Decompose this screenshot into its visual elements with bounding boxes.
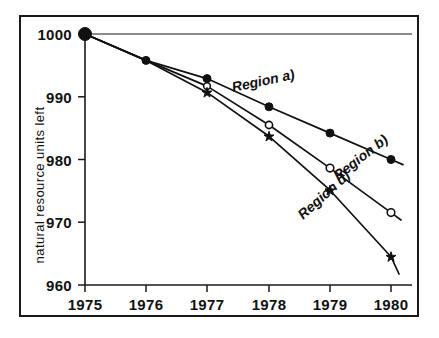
x-tick-label-1979: 1979 bbox=[313, 296, 348, 313]
y-tick-label-960: 960 bbox=[46, 277, 72, 294]
series-line-region-d bbox=[85, 34, 391, 257]
x-tick-label-1980: 1980 bbox=[374, 296, 409, 313]
y-tick-label-990: 990 bbox=[46, 89, 72, 106]
y-tick-label-970: 970 bbox=[46, 214, 72, 231]
series-label-region-a: Region a) bbox=[230, 66, 296, 95]
series-line-region-a bbox=[85, 34, 391, 160]
x-tick-label-1978: 1978 bbox=[252, 296, 287, 313]
x-tick-label-1976: 1976 bbox=[129, 296, 164, 313]
origin-marker bbox=[79, 28, 92, 41]
x-tick-label-1975: 1975 bbox=[68, 296, 103, 313]
y-axis-title: natural resource units left bbox=[32, 107, 47, 264]
y-tick-label-980: 980 bbox=[46, 152, 72, 169]
y-tick-label-1000: 1000 bbox=[37, 26, 72, 43]
x-tick-label-1977: 1977 bbox=[190, 296, 225, 313]
figure-container: 1000 990 980 970 960 1975 1976 1977 1978… bbox=[0, 0, 439, 338]
x-tick-marks bbox=[85, 285, 391, 292]
chart-canvas: 1000 990 980 970 960 1975 1976 1977 1978… bbox=[0, 0, 439, 338]
series-markers-region-d bbox=[202, 87, 396, 261]
series-label-region-d: Region d) bbox=[294, 167, 353, 222]
y-tick-marks bbox=[78, 34, 85, 285]
